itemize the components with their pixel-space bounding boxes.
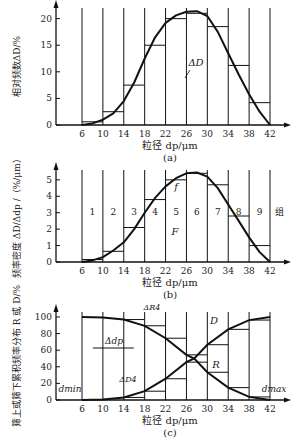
y-tick-label: 10 <box>41 67 53 77</box>
y-tick-label: 15 <box>41 40 53 50</box>
group-label: 4 <box>152 207 158 217</box>
x-tick-label: 38 <box>243 266 255 276</box>
annotation-leader <box>185 70 190 78</box>
x-tick-label: 26 <box>181 129 193 139</box>
annotation-D: D <box>209 315 218 326</box>
x-tick-label: 18 <box>139 266 151 276</box>
y-tick-label: 20 <box>41 14 53 24</box>
group-label: 6 <box>194 207 200 217</box>
annotation-f: f <box>173 181 180 192</box>
x-tick-label: 30 <box>202 404 214 414</box>
panel-caption: (c) <box>163 427 177 438</box>
x-tick-label: 34 <box>222 129 234 139</box>
x-tick-label: 42 <box>264 404 275 414</box>
y-tick-label: 2 <box>46 224 52 234</box>
x-tick-label: 30 <box>202 129 214 139</box>
annotation-delta-dp: Δdp <box>104 336 123 346</box>
y-tick-label: 20 <box>41 378 53 388</box>
y-axis-label: 频率密度 ΔD/Δdp /（%/μm） <box>11 154 22 278</box>
y-tick-label: 5 <box>46 93 52 103</box>
x-axis-arrow <box>284 398 291 403</box>
x-axis-arrow <box>284 260 291 265</box>
x-tick-label: 30 <box>202 266 214 276</box>
x-tick-label: 38 <box>243 404 255 414</box>
x-tick-label: 18 <box>139 404 151 414</box>
group-label: 8 <box>236 207 242 217</box>
annotation-delta-d: ΔD <box>187 57 203 68</box>
x-tick-label: 10 <box>97 266 109 276</box>
x-axis-label: 粒径 dp/μm <box>142 276 198 288</box>
y-axis-label: 相对频数ΔD/% <box>11 35 22 97</box>
y-tick-label: 60 <box>41 345 53 355</box>
y-axis-label: 筛上或筛下累积频率分布 R 或 D/% <box>11 284 22 427</box>
group-label: 3 <box>131 207 137 217</box>
x-tick-label: 14 <box>118 129 130 139</box>
group-label: 7 <box>215 207 221 217</box>
panel-caption: (b) <box>163 289 177 300</box>
x-axis-label: 粒径 dp/μm <box>142 414 198 426</box>
group-label: 2 <box>110 207 116 217</box>
x-tick-label: 14 <box>118 404 130 414</box>
annotation-delta-d4: ΔD4 <box>118 375 136 384</box>
x-axis-label: 粒径 dp/μm <box>142 139 198 151</box>
x-tick-label: 14 <box>118 266 130 276</box>
y-tick-label: 5 <box>46 175 52 185</box>
y-tick-label: 0 <box>46 395 52 405</box>
annotation-delta-r4: ΔR4 <box>143 303 161 312</box>
annotation-dmin: dmin <box>59 384 82 394</box>
y-tick-label: 3 <box>46 208 52 218</box>
annotation-R: R <box>211 359 220 370</box>
x-tick-label: 6 <box>79 266 85 276</box>
x-tick-label: 22 <box>160 129 171 139</box>
distribution-curve <box>82 11 270 125</box>
group-label: 9 <box>257 207 263 217</box>
x-tick-label: 10 <box>97 404 109 414</box>
x-tick-label: 42 <box>264 129 275 139</box>
annotation-dmax: dmax <box>262 384 287 394</box>
figure: 051015206101418222630343842ΔD粒径 dp/μm(a)… <box>0 0 293 447</box>
y-axis-arrow <box>54 304 59 312</box>
y-tick-label: 40 <box>41 362 53 372</box>
group-label: 1 <box>90 207 96 217</box>
x-tick-label: 38 <box>243 129 255 139</box>
x-tick-label: 26 <box>181 404 193 414</box>
annotation-F: F <box>171 226 180 237</box>
y-axis-arrow <box>54 162 59 170</box>
x-tick-label: 18 <box>139 129 151 139</box>
x-tick-label: 22 <box>160 404 171 414</box>
x-tick-label: 6 <box>79 129 85 139</box>
y-tick-label: 100 <box>35 312 52 322</box>
x-tick-label: 10 <box>97 129 109 139</box>
y-axis-arrow <box>54 0 59 8</box>
y-tick-label: 0 <box>46 120 52 130</box>
group-title: 组 <box>275 206 284 217</box>
x-tick-label: 26 <box>181 266 193 276</box>
x-tick-label: 34 <box>222 266 234 276</box>
x-tick-label: 22 <box>160 266 171 276</box>
x-tick-label: 42 <box>264 266 275 276</box>
panel-caption: (a) <box>163 152 177 163</box>
y-tick-label: 1 <box>46 241 52 251</box>
y-tick-label: 80 <box>41 329 53 339</box>
x-axis-arrow <box>284 123 291 128</box>
y-tick-label: 0 <box>46 257 52 267</box>
group-label: 5 <box>173 207 179 217</box>
x-tick-label: 6 <box>79 404 85 414</box>
x-tick-label: 34 <box>222 404 234 414</box>
y-tick-label: 4 <box>46 191 52 201</box>
